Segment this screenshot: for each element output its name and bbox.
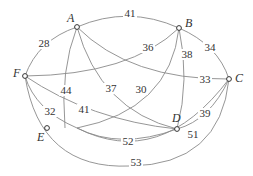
node-label-F: F [12, 66, 21, 80]
edge-weight-label: 51 [188, 128, 199, 140]
edge-weight-label: 32 [45, 105, 56, 117]
edge-B-E [77, 28, 179, 128]
node-label-C: C [235, 71, 244, 85]
edge-F-B [25, 28, 179, 76]
edge-weight-label: 36 [143, 41, 155, 53]
edge-weight-label: 41 [79, 103, 90, 115]
node-label-B: B [185, 16, 193, 30]
node-C [227, 77, 232, 82]
node-B [177, 26, 182, 31]
edge-weight-label: 41 [125, 7, 136, 19]
edge-weight-label: 30 [136, 83, 148, 95]
edge-weight-label: 44 [61, 84, 73, 96]
edge-C-D [177, 79, 229, 129]
edge-A-C [77, 27, 229, 79]
edge-weight-label: 28 [39, 37, 51, 49]
node-D [175, 127, 180, 132]
edge-weight-label: 53 [131, 156, 143, 168]
node-label-E: E [36, 130, 45, 144]
edge-weight-label: 37 [106, 82, 118, 94]
edge-weight-labels: 412834333644373038413239525153 [37, 7, 217, 168]
node-F [23, 74, 28, 79]
edge-A-E [64, 27, 77, 128]
edge-weight-label: 39 [200, 107, 212, 119]
edge-F-C [25, 76, 229, 166]
edge-weight-label: 52 [123, 135, 134, 147]
node-A [75, 25, 80, 30]
edge-weight-label: 33 [200, 73, 212, 85]
node-E [45, 126, 50, 131]
edge-weight-label: 34 [205, 41, 217, 53]
weighted-graph-diagram: 412834333644373038413239525153 ABCDEF [0, 0, 253, 176]
node-label-A: A [66, 11, 75, 25]
node-label-D: D [171, 111, 181, 125]
edge-weight-label: 38 [182, 48, 194, 60]
